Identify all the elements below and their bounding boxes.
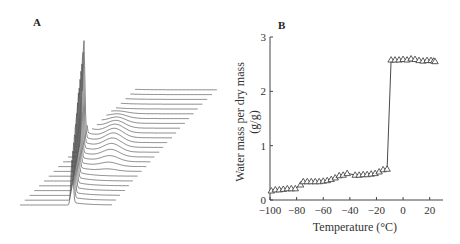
spectrum-trace: [49, 103, 138, 176]
y-tick-label: 1: [261, 140, 267, 152]
spectrum-trace: [116, 108, 198, 109]
spectrum-trace: [121, 103, 203, 104]
x-tick-label: 20: [424, 204, 436, 216]
y-tick-label: 3: [261, 31, 267, 43]
spectrum-trace: [130, 94, 212, 95]
waterfall-traces: [0, 0, 230, 244]
x-tick-label: −80: [288, 204, 306, 216]
spectrum-trace: [111, 111, 193, 114]
spectrum-trace: [126, 99, 208, 100]
y-tick-label: 2: [261, 85, 267, 97]
x-tick-label: −40: [341, 204, 359, 216]
triangle-marker: [344, 170, 350, 175]
spectrum-trace: [106, 114, 188, 119]
panel-b-label: B: [278, 19, 285, 31]
x-tick-label: 0: [400, 204, 406, 216]
x-tick-label: −20: [368, 204, 386, 216]
series-line: [271, 59, 435, 191]
spectrum-trace: [54, 93, 142, 171]
panel-b-chart: B 0123−100−80−60−40−20020 Temperature (°…: [230, 0, 460, 244]
y-axis-label-line2: (g/g): [247, 110, 261, 133]
x-axis-label: Temperature (°C): [313, 220, 397, 234]
panel-a-label: A: [33, 16, 41, 28]
y-axis-label-line1: Water mass per dry mass: [233, 62, 247, 182]
spectrum-trace: [82, 41, 167, 143]
panel-a-waterfall-plot: A: [0, 0, 230, 244]
x-tick-label: −100: [259, 204, 282, 216]
water-content-line-chart: 0123−100−80−60−40−20020 Temperature (°C)…: [230, 0, 460, 244]
y-axis-label: Water mass per dry mass (g/g): [233, 62, 261, 182]
x-tick-label: −60: [315, 204, 333, 216]
spectrum-trace: [87, 125, 172, 138]
spectrum-trace: [97, 120, 180, 128]
spectrum-trace: [44, 113, 133, 181]
chart-series: [268, 56, 438, 193]
triangle-marker: [384, 166, 390, 171]
